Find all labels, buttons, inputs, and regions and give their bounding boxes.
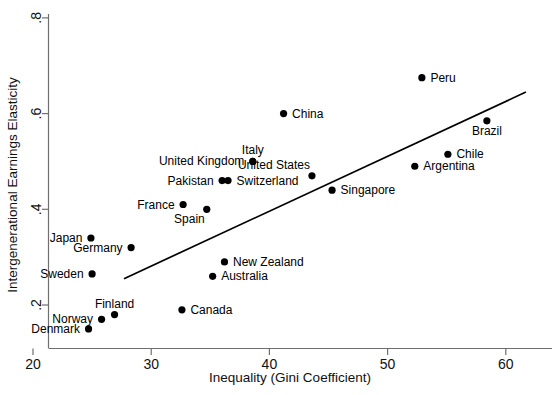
- data-point: Germany: [73, 241, 134, 255]
- data-point: Brazil: [472, 117, 502, 138]
- scatter-plot-figure: .2.4.6.8 2030405060 DenmarkNorwayFinland…: [0, 0, 552, 395]
- data-point: Spain: [174, 206, 210, 227]
- data-point: Singapore: [328, 183, 395, 197]
- data-point-label: Switzerland: [237, 174, 299, 188]
- data-point: China: [280, 107, 324, 121]
- data-point-label: Singapore: [341, 183, 396, 197]
- x-tick-group: 2030405060: [25, 349, 514, 373]
- data-point-label: China: [292, 107, 324, 121]
- x-axis-title: Inequality (Gini Coefficient): [209, 370, 371, 385]
- data-point: Pakistan: [168, 174, 226, 188]
- data-point-marker: [224, 177, 231, 184]
- data-point-marker: [221, 258, 228, 265]
- data-points-group: DenmarkNorwayFinlandSwedenCanadaAustrali…: [31, 71, 502, 336]
- data-point: Argentina: [411, 159, 475, 173]
- data-point-marker: [89, 270, 96, 277]
- data-point-label: Chile: [456, 147, 484, 161]
- data-point: Australia: [209, 269, 268, 283]
- chart-canvas: .2.4.6.8 2030405060 DenmarkNorwayFinland…: [0, 0, 552, 395]
- data-point-label: Japan: [50, 231, 83, 245]
- data-point-marker: [111, 311, 118, 318]
- y-tick-label: .2: [28, 299, 44, 311]
- y-tick-label: .4: [28, 203, 44, 215]
- data-point-label: United States: [238, 158, 310, 172]
- x-tick-label: 20: [25, 356, 41, 372]
- data-point-marker: [249, 158, 256, 165]
- data-point-marker: [209, 273, 216, 280]
- data-point-marker: [180, 201, 187, 208]
- data-point: Sweden: [40, 267, 95, 281]
- data-point-marker: [128, 244, 135, 251]
- data-point-marker: [178, 306, 185, 313]
- data-point-label: Brazil: [472, 124, 502, 138]
- data-point-label: Finland: [95, 297, 134, 311]
- data-point-marker: [98, 316, 105, 323]
- data-point-label: Italy: [242, 143, 264, 157]
- data-point-label: Canada: [190, 303, 232, 317]
- data-point-marker: [280, 110, 287, 117]
- data-point-label: Sweden: [40, 267, 83, 281]
- data-point: France: [137, 198, 186, 212]
- x-tick-label: 60: [498, 356, 514, 372]
- data-point-marker: [308, 172, 315, 179]
- data-point: Switzerland: [224, 174, 298, 188]
- x-axis: 2030405060: [25, 349, 552, 373]
- data-point-marker: [411, 163, 418, 170]
- data-point-marker: [418, 74, 425, 81]
- data-point-label: Pakistan: [168, 174, 214, 188]
- x-tick-label: 30: [143, 356, 159, 372]
- y-axis: .2.4.6.8: [28, 12, 49, 348]
- data-point: New Zealand: [221, 255, 304, 269]
- data-point: Canada: [178, 303, 232, 317]
- data-point-label: France: [137, 198, 175, 212]
- data-point-marker: [85, 325, 92, 332]
- data-point-label: Australia: [221, 269, 268, 283]
- data-point-label: Peru: [430, 71, 455, 85]
- x-tick-label: 50: [380, 356, 396, 372]
- data-point-label: United Kingdom: [159, 154, 244, 168]
- data-point-label: Spain: [174, 212, 205, 226]
- data-point-marker: [328, 187, 335, 194]
- y-axis-title: Intergenerational Earnings Elasticity: [5, 77, 20, 293]
- data-point: Peru: [418, 71, 455, 85]
- y-tick-label: .8: [28, 12, 44, 24]
- data-point-marker: [444, 151, 451, 158]
- data-point-label: New Zealand: [233, 255, 304, 269]
- data-point-label: Norway: [52, 312, 93, 326]
- data-point-label: Argentina: [423, 159, 475, 173]
- data-point: Norway: [52, 312, 105, 326]
- data-point: Finland: [95, 297, 134, 319]
- data-point-marker: [87, 234, 94, 241]
- y-tick-label: .6: [28, 108, 44, 120]
